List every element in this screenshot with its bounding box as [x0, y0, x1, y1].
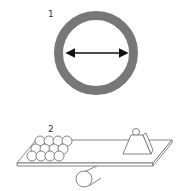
figure-2-label: 2 [48, 124, 54, 134]
figure-2: 2 [17, 124, 172, 187]
figure-1: 1 [48, 9, 134, 91]
figure-1-label: 1 [48, 9, 54, 19]
cylinder [76, 171, 92, 187]
board-front [17, 163, 153, 166]
diagram-canvas: 1 2 [0, 0, 181, 191]
